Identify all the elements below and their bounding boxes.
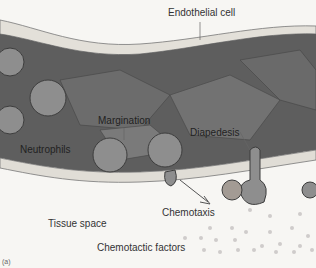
diagram-neutrophil-migration: Endothelial cell Margination Diapedesis …: [0, 0, 316, 268]
label-margination: Margination: [98, 116, 150, 126]
label-neutrophils: Neutrophils: [20, 145, 71, 155]
label-endothelial-cell: Endothelial cell: [168, 8, 235, 18]
label-chemotactic-factors: Chemotactic factors: [97, 243, 185, 253]
label-diapedesis: Diapedesis: [190, 128, 239, 138]
panel-label: (a): [2, 258, 11, 265]
label-chemotaxis: Chemotaxis: [162, 208, 215, 218]
label-tissue-space: Tissue space: [48, 219, 107, 229]
